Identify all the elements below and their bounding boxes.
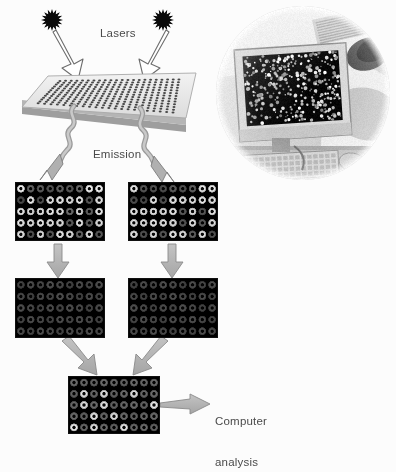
panel-normalized-right: [128, 278, 218, 338]
label-computer-analysis-line2: analysis: [215, 456, 267, 470]
panel-scan-right: [128, 182, 218, 241]
laser-left: [41, 9, 63, 31]
arrow-left-scan-to-normalized: [47, 244, 69, 278]
panel-normalized-left-grid: [16, 279, 104, 337]
label-computer-analysis-line1: Computer: [215, 415, 267, 429]
laser-beam-right: [139, 30, 169, 80]
panel-scan-left-grid: [16, 183, 104, 240]
label-lasers: Lasers: [100, 27, 136, 41]
panel-normalized-right-grid: [129, 279, 217, 337]
arrow-merged-to-computer-analysis: [160, 394, 210, 414]
microarray-slide: [22, 73, 196, 132]
label-emission: Emission: [93, 148, 141, 162]
arrow-left-normalized-to-merged: [62, 336, 97, 375]
panel-merged: [68, 376, 160, 434]
panel-merged-grid: [69, 377, 159, 433]
arrow-right-scan-to-normalized: [161, 244, 183, 278]
label-computer-analysis: Computer analysis: [215, 388, 267, 472]
laser-beam-left: [53, 30, 83, 80]
panel-scan-right-grid: [129, 183, 217, 240]
arrow-right-normalized-to-merged: [133, 336, 168, 375]
laser-right: [152, 9, 174, 31]
panel-normalized-left: [15, 278, 105, 338]
panel-scan-left: [15, 182, 105, 241]
